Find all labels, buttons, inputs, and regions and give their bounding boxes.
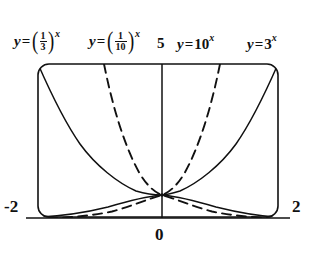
plot-area [0, 0, 318, 261]
exponential-functions-figure: y=(13)x y=(110)x y=10x y=3x 5 -2 2 0 [0, 0, 318, 261]
common-point-marker [160, 193, 164, 197]
